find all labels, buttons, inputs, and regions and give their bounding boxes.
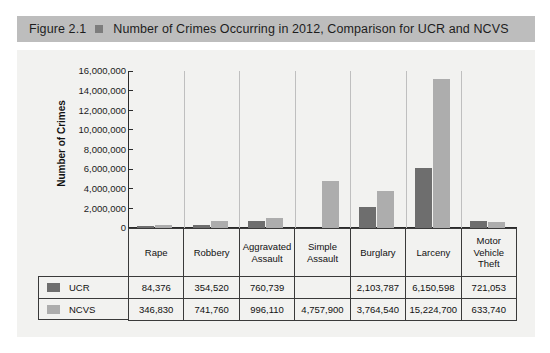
table-cell: 721,053 <box>461 277 516 299</box>
bar-ncvs-simple-assault <box>322 181 339 228</box>
table-header-row: RapeRobberyAggravatedAssaultSimpleAssaul… <box>129 229 517 277</box>
bar-ucr-larceny <box>415 168 432 228</box>
table-cell: 996,110 <box>239 299 294 321</box>
bar-ncvs-aggravated-assault <box>266 218 283 228</box>
y-axis-tick-label: 6,000,000 <box>84 164 129 174</box>
table-cell: 4,757,900 <box>295 299 350 321</box>
y-axis-tick-label: 14,000,000 <box>78 86 129 96</box>
table-cell: 6,150,598 <box>406 277 461 299</box>
y-axis-title: Number of Crimes <box>56 74 67 214</box>
y-axis-tick-label: 2,000,000 <box>84 204 129 214</box>
figure-container: Figure 2.1 Number of Crimes Occurring in… <box>0 0 550 353</box>
table-header-cell: SimpleAssault <box>295 229 350 277</box>
legend-item-ncvs: NCVS <box>38 298 129 320</box>
square-bullet-icon <box>95 25 103 33</box>
bar-group <box>295 71 351 228</box>
table-cell: 354,520 <box>184 277 239 299</box>
table-cell: 15,224,700 <box>406 299 461 321</box>
table-cell: 84,376 <box>129 277 184 299</box>
table-cell: 2,103,787 <box>350 277 405 299</box>
bar-ncvs-burglary <box>377 191 394 228</box>
table-cell: 760,739 <box>239 277 294 299</box>
table-row: 346,830741,760996,1104,757,9003,764,5401… <box>129 299 517 321</box>
bar-group <box>461 71 517 228</box>
table-header-cell: MotorVehicleTheft <box>461 229 516 277</box>
legend-label: UCR <box>69 282 90 293</box>
bar-ucr-aggravated-assault <box>248 221 265 228</box>
plot-region <box>128 71 517 228</box>
data-table: RapeRobberyAggravatedAssaultSimpleAssaul… <box>128 228 517 321</box>
bar-ucr-motor-vehicle-theft <box>470 221 487 228</box>
table-cell: 3,764,540 <box>350 299 405 321</box>
legend-label: NCVS <box>69 304 95 315</box>
legend-swatch-icon <box>47 305 60 314</box>
bar-ucr-burglary <box>359 207 376 228</box>
table-cell: 633,740 <box>461 299 516 321</box>
legend-column: UCRNCVS <box>38 276 129 320</box>
bar-ncvs-larceny <box>433 79 450 228</box>
y-axis-tick-label: 8,000,000 <box>84 145 129 155</box>
y-axis-tick-label: 4,000,000 <box>84 184 129 194</box>
figure-number: Figure 2.1 <box>29 22 86 36</box>
table-header-cell: Rape <box>129 229 184 277</box>
y-axis-tick-label: 10,000,000 <box>78 125 129 135</box>
bar-group <box>350 71 406 228</box>
legend-swatch-icon <box>47 283 60 292</box>
bar-group <box>128 71 184 228</box>
bar-group <box>184 71 240 228</box>
table-cell: 346,830 <box>129 299 184 321</box>
y-axis-tick-label: 12,000,000 <box>78 106 129 116</box>
chart-area: Number of Crimes 16,000,00014,000,00012,… <box>17 50 535 337</box>
bar-ncvs-robbery <box>211 221 228 228</box>
figure-title-bar: Figure 2.1 Number of Crimes Occurring in… <box>17 16 535 42</box>
table-row: 84,376354,520760,7392,103,7876,150,59872… <box>129 277 517 299</box>
table-header-cell: Burglary <box>350 229 405 277</box>
legend-item-ucr: UCR <box>38 276 129 298</box>
bar-group <box>239 71 295 228</box>
y-axis-tick-label: 16,000,000 <box>78 66 129 76</box>
table-cell: 741,760 <box>184 299 239 321</box>
table-cell <box>295 277 350 299</box>
figure-title: Number of Crimes Occurring in 2012, Comp… <box>113 22 508 36</box>
table-header-cell: Larceny <box>406 229 461 277</box>
bar-group <box>406 71 462 228</box>
crime-data-table: RapeRobberyAggravatedAssaultSimpleAssaul… <box>128 228 517 321</box>
table-header-cell: Robbery <box>184 229 239 277</box>
table-header-cell: AggravatedAssault <box>239 229 294 277</box>
